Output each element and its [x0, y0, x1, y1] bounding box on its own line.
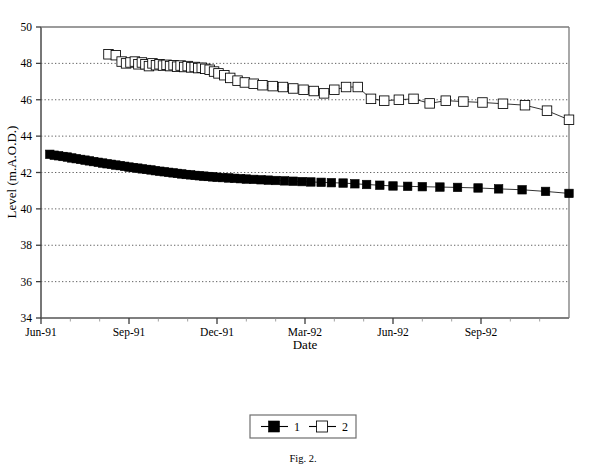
marker-2-36: [278, 82, 288, 92]
marker-1-67: [565, 189, 574, 198]
marker-1-64: [494, 185, 503, 194]
marker-2-44: [366, 94, 376, 104]
marker-2-54: [542, 106, 552, 116]
y-axis-tick-labels: 343638404244464850: [21, 21, 33, 324]
x-tick-label-2: Dec-91: [200, 326, 234, 338]
marker-2-55: [564, 115, 574, 125]
y-tick-label-36: 36: [21, 276, 33, 288]
x-tick-label-4: Jun-92: [377, 326, 409, 338]
marker-2-40: [319, 89, 329, 99]
chart-legend[interactable]: 1 2: [250, 415, 356, 438]
legend-label-1: 1: [294, 420, 300, 434]
marker-2-43: [353, 82, 363, 92]
marker-1-55: [351, 180, 360, 189]
marker-1-52: [317, 178, 326, 187]
marker-2-51: [478, 98, 488, 108]
marker-2-37: [289, 84, 299, 94]
y-tick-label-38: 38: [21, 239, 33, 251]
marker-2-32: [240, 78, 250, 88]
marker-2-39: [309, 86, 319, 96]
marker-2-42: [341, 82, 351, 92]
marker-2-34: [258, 80, 268, 90]
y-tick-label-44: 44: [21, 130, 33, 142]
marker-1-65: [518, 186, 527, 195]
marker-2-53: [520, 100, 530, 110]
x-tick-label-5: Sep-92: [465, 326, 498, 339]
marker-1-57: [376, 181, 385, 190]
legend-label-2: 2: [342, 420, 348, 434]
marker-1-61: [436, 183, 445, 192]
x-tick-label-0: Jun-91: [25, 326, 57, 338]
marker-2-33: [249, 79, 258, 89]
legend-marker-open-square: [317, 421, 328, 432]
marker-1-51: [307, 178, 316, 187]
marker-1-56: [362, 180, 371, 189]
marker-2-47: [409, 94, 419, 104]
marker-1-62: [453, 183, 462, 192]
marker-1-59: [403, 182, 412, 191]
marker-1-47: [271, 176, 280, 185]
marker-1-53: [327, 178, 336, 187]
marker-1-50: [298, 177, 307, 186]
y-tick-label-50: 50: [21, 21, 33, 33]
marker-2-35: [268, 81, 278, 91]
marker-1-63: [474, 184, 483, 193]
y-tick-label-48: 48: [21, 57, 33, 69]
figure-caption: Fig. 2.: [289, 453, 316, 464]
marker-2-38: [299, 85, 309, 95]
marker-1-54: [339, 179, 348, 188]
marker-2-46: [394, 95, 404, 105]
y-tick-label-34: 34: [21, 312, 33, 324]
marker-1-60: [418, 182, 427, 191]
marker-2-52: [498, 99, 508, 109]
marker-2-48: [425, 99, 435, 109]
marker-1-58: [389, 182, 398, 191]
y-tick-label-40: 40: [21, 203, 33, 215]
x-axis-title: Date: [293, 337, 318, 352]
x-tick-label-1: Sep-91: [113, 326, 146, 339]
figure-background: [0, 0, 606, 472]
y-tick-label-46: 46: [21, 94, 33, 106]
marker-2-50: [459, 97, 469, 107]
marker-2-41: [330, 85, 340, 95]
marker-1-48: [280, 177, 289, 186]
marker-2-45: [379, 96, 389, 106]
marker-1-49: [289, 177, 298, 186]
marker-1-66: [541, 187, 550, 196]
y-tick-label-42: 42: [21, 167, 33, 179]
figure-container: 343638404244464850 Jun-91Sep-91Dec-91Mar…: [0, 0, 606, 472]
chart-canvas: 343638404244464850 Jun-91Sep-91Dec-91Mar…: [0, 0, 606, 472]
legend-marker-filled-square: [269, 421, 280, 432]
marker-2-49: [441, 96, 451, 106]
y-axis-title: Level (m.A.O.D.): [4, 126, 19, 219]
